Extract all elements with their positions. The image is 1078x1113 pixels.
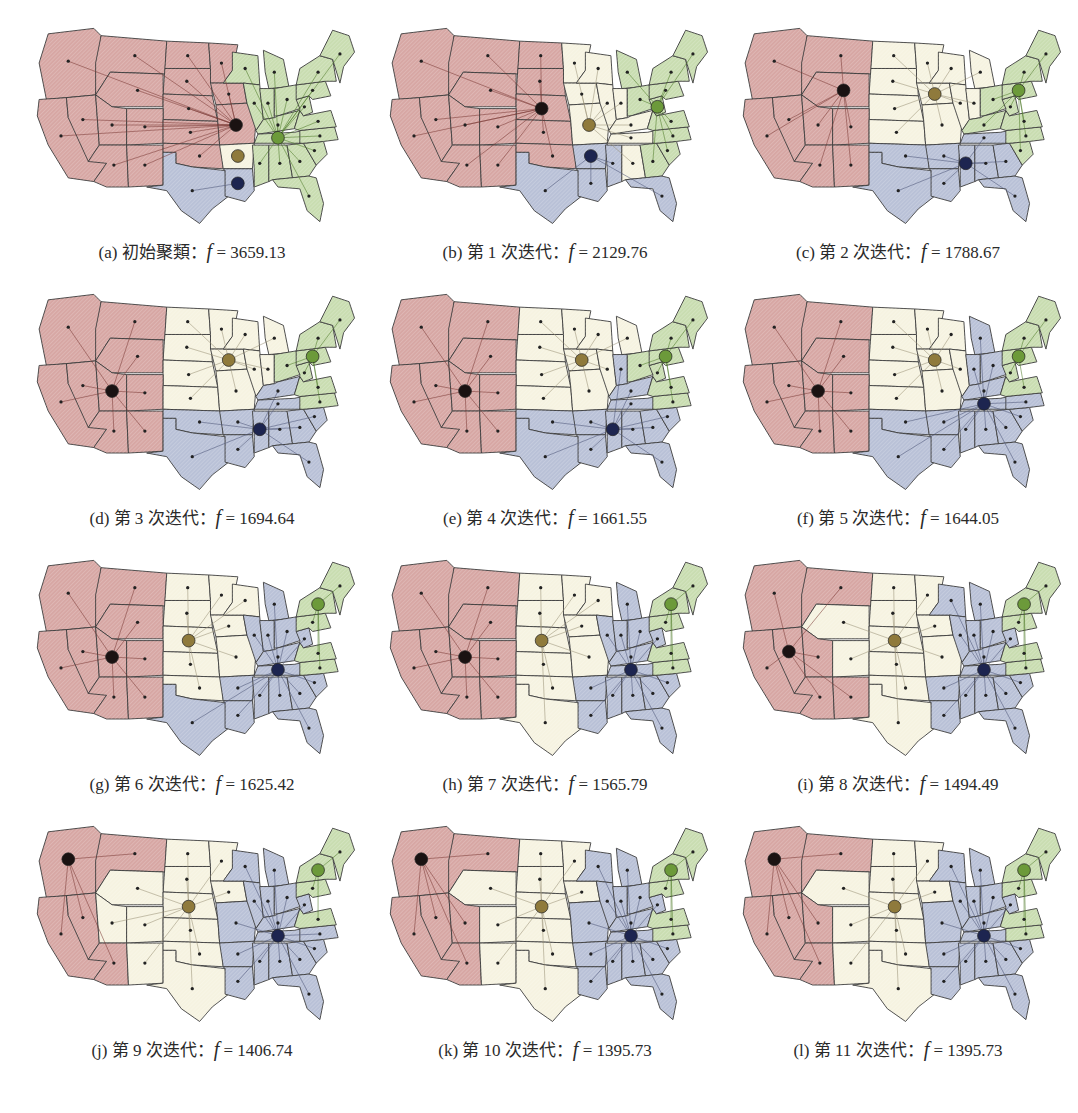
city-point [972,633,975,636]
city-point [489,89,492,92]
city-point [1009,903,1012,906]
city-point [626,603,629,606]
caption-f-symbol: f [214,1038,220,1060]
panel-caption: (e) 第 4 次迭代：f = 1661.55 [365,504,725,529]
cluster-center-central [182,634,195,647]
panel-e: (e) 第 4 次迭代：f = 1661.55 [365,266,715,528]
city-point [187,373,190,376]
city-point [187,107,190,110]
city-point [959,633,962,636]
cluster-center-south [231,177,244,190]
panel-caption: (h) 第 7 次迭代：f = 1565.79 [365,770,725,795]
cluster-center-south [606,423,619,436]
city-point [671,666,674,669]
city-point [1004,958,1007,961]
state-texture [625,974,676,1020]
city-point [1013,460,1016,463]
city-point [198,952,201,955]
cluster-center-west [415,853,428,866]
cluster-center-east [1012,350,1025,363]
city-point [273,869,276,872]
city-point [1022,918,1025,921]
city-point [313,415,316,418]
caption-label: (h) [443,775,463,794]
city-point [933,890,936,893]
panel-caption: (a) 初始聚類：f = 3659.13 [12,238,372,263]
city-point [234,655,237,658]
city-point [81,384,84,387]
cluster-center-south [272,929,285,942]
city-point [942,448,945,451]
cluster-center-west [106,651,119,664]
city-point [940,655,943,658]
city-point [596,333,599,336]
cluster-center-east [659,350,672,363]
city-point [434,118,437,121]
city-point [81,916,84,919]
state-texture [296,322,336,351]
city-point [278,694,281,697]
city-point [307,194,310,197]
caption-value: 1565.79 [592,775,647,794]
city-point [544,189,547,192]
city-point [839,54,842,57]
city-point [991,896,994,899]
city-point [316,120,319,123]
city-point [979,337,982,340]
city-point [185,878,188,881]
us-cluster-map [30,270,360,502]
city-point [891,80,894,83]
city-point [59,666,62,669]
caption-title: 第 8 次迭代 [818,775,903,794]
city-point [940,389,943,392]
city-point [892,586,895,589]
city-point [669,652,672,655]
cluster-center-south [625,663,638,676]
city-point [307,460,310,463]
city-point [189,663,192,666]
city-point [191,455,194,458]
city-point [818,429,821,432]
cluster-center-west [837,84,850,97]
caption-f-symbol: f [216,772,222,794]
panel-caption: (k) 第 10 次迭代：f = 1395.73 [365,1036,725,1061]
city-point [236,420,239,423]
caption-value: 2129.76 [592,243,647,262]
city-point [465,961,468,964]
city-point [818,961,821,964]
city-point [818,695,821,698]
city-point [412,666,415,669]
city-point [596,865,599,868]
city-point [220,61,223,64]
city-point [660,194,663,197]
caption-title: 第 9 次迭代 [112,1041,197,1060]
city-point [1044,850,1047,853]
state-texture [272,442,323,488]
city-point [434,384,437,387]
city-point [1044,318,1047,321]
caption-colon: ： [904,243,921,262]
caption-colon: ： [552,775,569,794]
city-point [949,333,952,336]
caption-f-symbol: f [207,240,213,262]
city-point [143,695,146,698]
city-point [892,320,895,323]
city-point [486,852,489,855]
caption-title: 第 5 次迭代 [818,509,903,528]
state-texture [39,28,101,99]
caption-equals: = [578,775,588,794]
cluster-center-east [665,864,678,877]
state-texture [296,56,336,85]
city-point [671,932,674,935]
city-point [619,633,622,636]
city-point [489,887,492,890]
city-point [573,593,576,596]
city-point [227,92,230,95]
city-point [839,320,842,323]
city-point [313,947,316,950]
caption-f-symbol: f [920,772,926,794]
city-point [143,429,146,432]
city-point [979,869,982,872]
city-point [629,389,632,392]
city-point [1024,666,1027,669]
